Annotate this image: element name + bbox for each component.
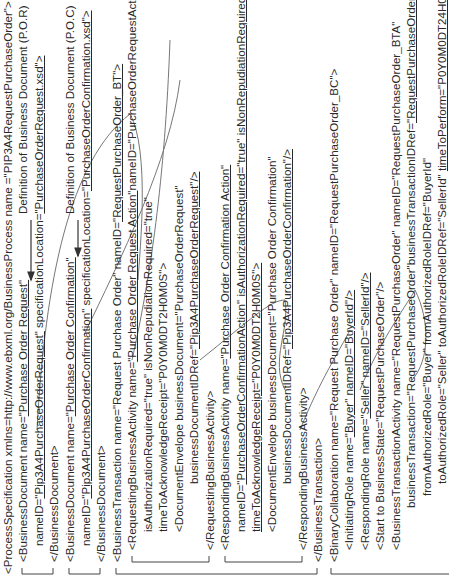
text: <RespondingRole name= <box>358 419 371 551</box>
doc-name-por: "Purchase Order Request" <box>16 280 29 416</box>
xml-line-19: businessDocumentIDRef="Pip3A4PurchaseOrd… <box>279 149 294 484</box>
text: toAuthorizedRole="Seller" toAuthorizedRo… <box>435 171 448 484</box>
xml-line-22: <BinaryCollaboration name="Request Purch… <box>326 69 341 562</box>
text: specificationLocation= <box>32 214 45 332</box>
xml-line-9: <RequestingBusinessActivity name="Purcha… <box>124 0 139 550</box>
text: <BusinessDocument name= <box>63 416 76 562</box>
xml-line-11: timeToAcknowledgeReceipt="P0Y0M0DT2H0M0S… <box>155 263 170 532</box>
rotated-xml-document: <ProcessSpecification xmlns=http://www.e… <box>0 0 449 580</box>
xml-line-5: <BusinessDocument name="Purchase Order C… <box>62 257 77 562</box>
xml-line-13: businessDocumentIDRef="Pip3A4PurchaseOrd… <box>186 172 201 484</box>
xml-line-27: businessTransaction="RequestPurchaseOrde… <box>403 0 418 508</box>
text: nameID="PurchaseOrderRequestAction" <box>125 0 138 191</box>
text: nameID= <box>32 499 45 546</box>
text: nameID= <box>234 485 247 532</box>
text: businessDocumentIDRef= <box>280 349 293 484</box>
xml-line-23: <InitiatingRole name="Buyer" nameID="Buy… <box>341 290 356 550</box>
xml-line-14: </RequestingBusinessActivity> <box>202 391 217 550</box>
time-to-perform: timeToPerform="P0Y0M0DT24H0M0S"/> <box>435 0 448 171</box>
text: specificationLocation= <box>79 191 92 309</box>
activity-name: "Purchase Order Confirmation Action" <box>218 165 231 359</box>
transaction-id: "RequestPurchaseOrder_BT"> <box>110 64 123 222</box>
text: <RespondingBusinessActivity name= <box>218 359 231 550</box>
transaction-id-ref: "RequestPurchaseOrder_BT" <box>404 0 417 123</box>
annotation-por: Definition of Business Document (P.O.R) <box>15 5 30 214</box>
xml-line-24: <RespondingRole name="Seller" nameID="Se… <box>357 273 372 551</box>
xml-line-26: <BusinessTransactionActivity name="Reque… <box>388 22 403 550</box>
doc-name-poc: "Purchase Order Confirmation" <box>63 257 76 416</box>
xml-line-16: nameID="PurchaseOrderConfirmationAction"… <box>233 0 248 532</box>
xml-line-20: </RespondingBusinessActivity> <box>295 388 310 550</box>
name-id: "Pip3A4PurchaseOrderConfirmation" <box>79 309 92 499</box>
text: <BusinessTransaction name="Request Purch… <box>110 222 123 562</box>
name-id: "Pip3A4PurchaseOrderRequest" <box>32 331 45 498</box>
text: businessDocumentIDRef= <box>187 349 200 484</box>
xml-line-28: fromAuthorizedRole="Buyer" fromAuthorize… <box>419 158 434 496</box>
spec-location: "PurchaseOrderRequest.xsd"> <box>32 56 45 214</box>
annotation-poc: Definition of Business Document (P.O.C) <box>62 5 77 214</box>
doc-id-ref: "Pip3A4PurchaseOrderRequest"/> <box>187 172 200 349</box>
text: <RequestingBusinessActivity name= <box>125 362 138 550</box>
role: "Seller" nameID="SellerId"/> <box>358 273 371 419</box>
text: <InitiatingRole name= <box>342 437 355 550</box>
xml-line-10: isAuthorizationRequired="true" isNonRepu… <box>140 197 155 532</box>
activity-attrs: "PurchaseOrderConfirmationAction" isAuth… <box>234 0 247 485</box>
xml-line-6: nameID="Pip3A4PurchaseOrderConfirmation"… <box>78 10 93 546</box>
text: <BusinessDocument name= <box>16 416 29 562</box>
xml-line-2: <BusinessDocument name="Purchase Order R… <box>15 280 30 562</box>
xml-line-21: </BusinessTransaction> <box>310 438 325 562</box>
spec-location: "PurchaseOrderConfirmation.xsd"> <box>79 10 92 191</box>
xml-line-1: <ProcessSpecification xmlns=http://www.e… <box>0 1 15 574</box>
xml-line-18: <DocumentEnvelope businessDocument="Purc… <box>264 156 279 532</box>
xml-line-25: <Start to BusinessState="RequestPurchase… <box>372 282 387 550</box>
xml-line-15: <RespondingBusinessActivity name="Purcha… <box>217 165 232 550</box>
activity-name: "Purchase Order Request Action" <box>125 191 138 362</box>
ack-receipt: timeToAcknowledgeReceipt="P0Y0M0DT2H0M0S… <box>249 263 262 532</box>
xml-line-29: toAuthorizedRole="Seller" toAuthorizedRo… <box>434 0 449 484</box>
xml-line-17: timeToAcknowledgeReceipt="P0Y0M0DT2H0M0S… <box>248 263 263 532</box>
role: "Buyer" nameID="BuyerId"/> <box>342 290 355 437</box>
xml-line-4: </BusinessDocument> <box>46 445 61 562</box>
xml-line-7: </BusinessDocument> <box>93 445 108 562</box>
text: businessTransaction="RequestPurchaseOrde… <box>404 123 417 508</box>
xml-line-8: <BusinessTransaction name="Request Purch… <box>109 64 124 562</box>
xml-line-12: <DocumentEnvelope businessDocument="Purc… <box>171 185 186 532</box>
doc-id-ref: "Pip3A4PurchaseOrderConfirmation"/> <box>280 149 293 349</box>
xml-line-3: nameID="Pip3A4PurchaseOrderRequest" spec… <box>31 56 46 546</box>
text: nameID= <box>79 499 92 546</box>
